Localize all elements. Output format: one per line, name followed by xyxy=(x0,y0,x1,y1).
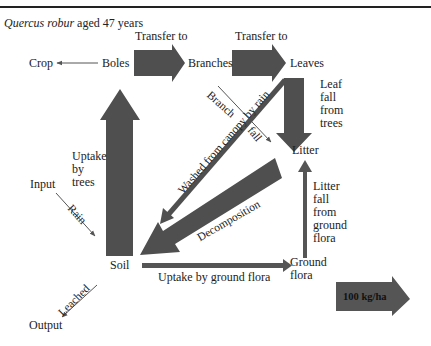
transfer-branches-leaves-arrow xyxy=(232,44,286,82)
litter-fall-ground-head xyxy=(298,160,312,172)
leaf-fall-arrow xyxy=(276,78,312,152)
transfer-boles-branches-arrow xyxy=(134,44,185,82)
label-transfer-2: Transfer to xyxy=(235,30,288,43)
uptake-ground-shaft xyxy=(142,263,284,268)
scale-label: 100 kg/ha xyxy=(343,291,386,302)
node-soil: Soil xyxy=(110,259,129,272)
node-boles: Boles xyxy=(102,57,129,70)
litter-fall-ground-shaft xyxy=(303,170,307,258)
node-crop: Crop xyxy=(29,57,53,70)
node-ground-flora: Ground flora xyxy=(290,256,327,282)
node-litter: Litter xyxy=(292,144,319,157)
node-branches: Branches xyxy=(188,57,233,70)
node-leaves: Leaves xyxy=(290,57,324,70)
label-litter-fall-ground: Litter fall from ground flora xyxy=(313,180,347,245)
label-transfer-1: Transfer to xyxy=(135,30,188,43)
label-leaf-fall: Leaf fall from trees xyxy=(320,78,343,130)
label-uptake-trees: Uptake by trees xyxy=(72,150,107,189)
label-uptake-ground: Uptake by ground flora xyxy=(158,271,270,284)
node-output: Output xyxy=(29,319,62,332)
node-input: Input xyxy=(30,178,55,191)
